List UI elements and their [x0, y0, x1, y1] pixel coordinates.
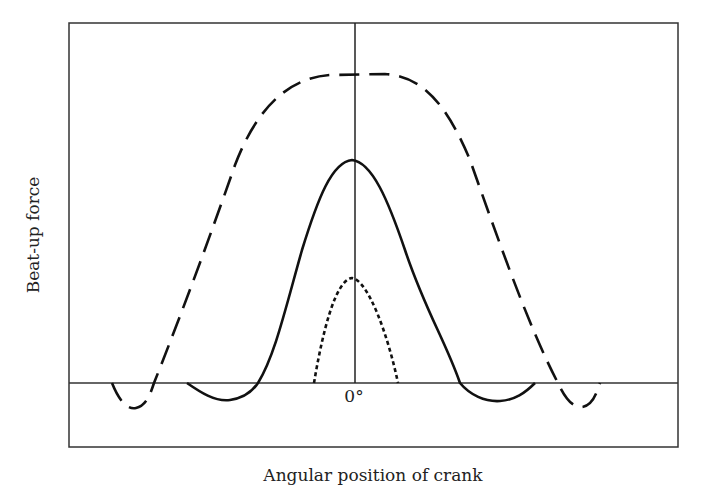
dashed-curve: [112, 74, 600, 408]
chart-plot-area: [0, 0, 708, 498]
dotted-curve: [314, 278, 398, 383]
x-axis-label: Angular position of crank: [263, 465, 482, 485]
zero-degree-tick-label: 0°: [344, 386, 363, 406]
y-axis-label: Beat-up force: [23, 177, 43, 294]
